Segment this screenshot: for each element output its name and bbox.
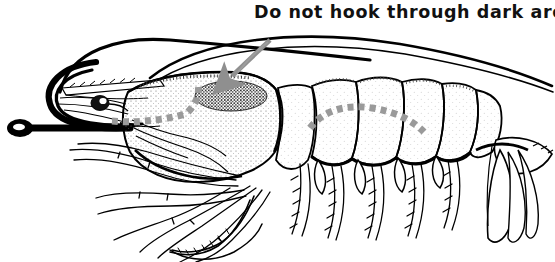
pleopods xyxy=(290,156,460,240)
shrimp-hooking-figure: Do not hook through dark area xyxy=(0,0,555,262)
shrimp-illustration xyxy=(0,0,555,262)
dark-area-oval xyxy=(195,81,267,111)
abdominal-segments xyxy=(312,78,502,166)
antenna-loop-left xyxy=(7,62,142,137)
